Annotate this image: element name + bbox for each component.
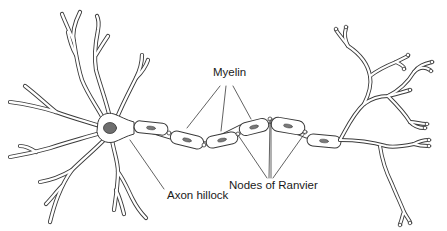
label-nodes-of-ranvier: Nodes of Ranvier: [229, 180, 318, 192]
axon-terminals: [334, 25, 434, 227]
label-axon-hillock: Axon hillock: [167, 190, 228, 202]
dendrites: [10, 12, 148, 222]
cell-body: [97, 113, 134, 142]
nucleus: [104, 123, 117, 134]
label-myelin: Myelin: [213, 67, 246, 79]
